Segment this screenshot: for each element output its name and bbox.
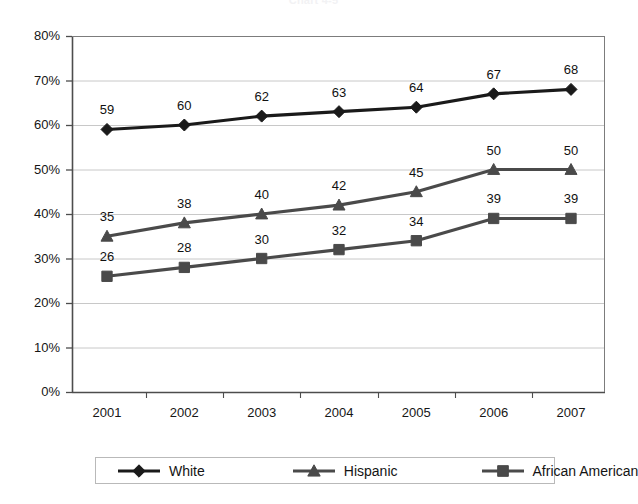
x-tick-label: 2007	[541, 406, 601, 419]
marker-diamond	[178, 119, 190, 131]
data-label: 28	[164, 241, 204, 254]
y-tick-label: 60%	[4, 118, 60, 131]
marker-diamond	[256, 110, 268, 122]
data-label: 32	[319, 224, 359, 237]
marker-diamond	[565, 83, 577, 95]
legend-triangle-icon	[291, 462, 337, 480]
data-label: 62	[242, 90, 282, 103]
data-label: 35	[87, 210, 127, 223]
legend-entry[interactable]: White	[116, 458, 205, 483]
data-label: 63	[319, 86, 359, 99]
y-tick-label: 30%	[4, 252, 60, 265]
data-label: 34	[396, 215, 436, 228]
x-tick-label: 2002	[154, 406, 214, 419]
data-label: 59	[87, 103, 127, 116]
marker-diamond	[410, 101, 422, 113]
data-label: 42	[319, 179, 359, 192]
y-tick-label: 80%	[4, 29, 60, 42]
x-tick-label: 2006	[464, 406, 524, 419]
marker-square	[102, 271, 112, 281]
marker-square	[489, 213, 499, 223]
data-label: 64	[396, 81, 436, 94]
legend-diamond-icon	[116, 462, 162, 480]
data-label: 40	[242, 188, 282, 201]
data-label: 60	[164, 99, 204, 112]
marker-square	[411, 236, 421, 246]
data-label: 38	[164, 197, 204, 210]
marker-square	[334, 244, 344, 254]
data-label: 67	[474, 68, 514, 81]
data-label: 45	[396, 166, 436, 179]
legend-label: African American	[533, 463, 638, 479]
y-tick-label: 40%	[4, 207, 60, 220]
legend-label: White	[169, 463, 205, 479]
x-tick-label: 2001	[77, 406, 137, 419]
marker-diamond	[488, 88, 500, 100]
x-tick-label: 2003	[232, 406, 292, 419]
marker-square	[179, 262, 189, 272]
legend-entry[interactable]: Hispanic	[291, 458, 398, 483]
data-label: 39	[551, 192, 591, 205]
marker-diamond	[333, 106, 345, 118]
y-tick-label: 50%	[4, 163, 60, 176]
legend-label: Hispanic	[344, 463, 398, 479]
y-tick-label: 10%	[4, 341, 60, 354]
data-label: 39	[474, 192, 514, 205]
data-label: 30	[242, 233, 282, 246]
legend-entry[interactable]: African American	[480, 458, 638, 483]
y-tick-label: 20%	[4, 296, 60, 309]
legend-square-icon	[480, 462, 526, 480]
data-label: 50	[474, 144, 514, 157]
x-tick-label: 2005	[386, 406, 446, 419]
marker-square	[257, 253, 267, 263]
y-tick-label: 70%	[4, 74, 60, 87]
data-label: 50	[551, 144, 591, 157]
x-tick-label: 2004	[309, 406, 369, 419]
marker-square	[566, 213, 576, 223]
chart-legend: WhiteHispanicAfrican American	[95, 457, 555, 484]
y-tick-label: 0%	[4, 385, 60, 398]
data-label: 68	[551, 63, 591, 76]
data-label: 26	[87, 250, 127, 263]
